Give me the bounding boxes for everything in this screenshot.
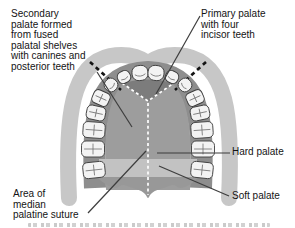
palate-diagram: Secondary palate formed from fused palat… [0, 0, 295, 228]
label-primary-palate: Primary palate with four incisor teeth [201, 9, 265, 41]
tooth-molar [82, 141, 105, 157]
tooth-molar [192, 141, 215, 157]
tooth-molar [190, 121, 213, 138]
tooth-molar [82, 161, 106, 179]
label-soft-palate: Soft palate [232, 191, 280, 202]
label-secondary-palate: Secondary palate formed from fused palat… [11, 9, 86, 72]
cropped-caption-fragment [28, 223, 270, 227]
label-median-suture-area: Area of median palatine suture [13, 189, 79, 221]
tooth-incisor [131, 65, 148, 82]
tooth-incisor [147, 65, 164, 82]
tooth-molar [190, 161, 214, 179]
label-hard-palate: Hard palate [232, 147, 284, 158]
tooth-molar [82, 121, 105, 138]
